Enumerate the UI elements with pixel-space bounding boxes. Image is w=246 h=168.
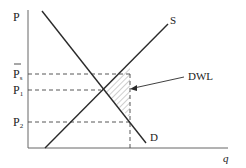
supply-curve <box>45 24 168 148</box>
price-label-ps: Ps <box>13 67 23 82</box>
dwl-arrow <box>134 77 184 88</box>
price-label-p2: P2 <box>13 115 24 130</box>
y-axis-label: P <box>13 10 20 24</box>
supply-label: S <box>170 14 176 26</box>
x-axis-label: q <box>223 152 229 164</box>
dwl-label: DWL <box>188 70 213 82</box>
demand-label: D <box>150 131 158 143</box>
price-label-p1: P1 <box>13 83 24 98</box>
dwl-diagram: P q Ps P1 P2 S D DWL <box>0 0 246 168</box>
arrowhead-icon <box>130 85 137 91</box>
